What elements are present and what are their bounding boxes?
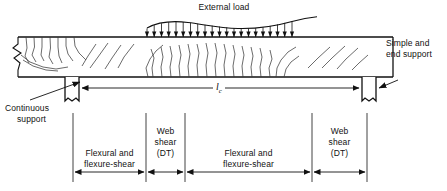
simple-end-support-label-line2: end support bbox=[386, 49, 446, 60]
beam-cracking-diagram: External load Simple and end support Con… bbox=[0, 0, 447, 191]
load-distribution-curve bbox=[147, 17, 317, 29]
simple-end-support-leader bbox=[379, 80, 398, 88]
zone-label-web-shear-right-line1: Web bbox=[312, 126, 367, 137]
span-length-label: lc bbox=[213, 81, 225, 95]
continuous-support-block bbox=[65, 77, 79, 101]
zone-label-web-shear-left-line3: (DT) bbox=[146, 148, 185, 159]
span-subscript: c bbox=[219, 87, 222, 95]
zone-label-flexural-mid-line2: flexure-shear bbox=[185, 159, 312, 170]
crack-pattern bbox=[21, 37, 368, 77]
external-load-group bbox=[145, 17, 317, 37]
continuous-support-label-line2: support bbox=[17, 114, 77, 125]
zone-label-flexural-left-line1: Flexural and bbox=[73, 148, 146, 159]
zone-label-web-shear-right-line3: (DT) bbox=[312, 148, 367, 159]
load-arrowheads bbox=[145, 32, 294, 38]
zone-label-web-shear-left-line1: Web bbox=[146, 126, 185, 137]
zone-label-flexural-left-line2: flexure-shear bbox=[73, 159, 146, 170]
beam-break-symbol bbox=[13, 37, 21, 77]
external-load-label: External load bbox=[169, 2, 279, 13]
zone-label-web-shear-right-line2: shear bbox=[312, 137, 367, 148]
zone-label-flexural-mid-line1: Flexural and bbox=[185, 148, 312, 159]
continuous-support-label-line1: Continuous bbox=[5, 103, 75, 114]
zone-label-web-shear-left-line2: shear bbox=[146, 137, 185, 148]
simple-end-support-label-line1: Simple and bbox=[386, 38, 446, 49]
simple-end-support-block bbox=[362, 77, 376, 101]
